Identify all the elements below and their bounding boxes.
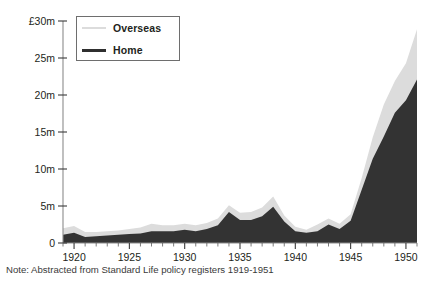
- y-tick-label: 15m: [35, 126, 56, 138]
- legend-item-overseas: Overseas: [77, 17, 179, 39]
- x-tick-label: 1945: [339, 251, 363, 263]
- x-tick-label: 1935: [228, 251, 252, 263]
- y-tick-label: 20m: [35, 89, 56, 101]
- y-tick-label: £30m: [29, 15, 56, 27]
- legend-swatch-overseas-icon: [82, 27, 106, 29]
- y-tick-label: 10m: [35, 163, 56, 175]
- chart-legend: Overseas Home: [76, 16, 180, 61]
- y-axis-tick-labels: 05m10m15m20m25m£30m: [29, 15, 56, 249]
- legend-label-overseas: Overseas: [113, 22, 161, 34]
- y-tick-label: 5m: [40, 200, 55, 212]
- x-tick-label: 1925: [118, 251, 142, 263]
- y-tick-label: 0: [49, 237, 55, 249]
- chart-source-note: Note: Abstracted from Standard Life poli…: [6, 264, 274, 275]
- chart-container: 05m10m15m20m25m£30m 19201925193019351940…: [0, 0, 446, 285]
- x-tick-label: 1920: [62, 251, 86, 263]
- y-tick-label: 25m: [35, 52, 56, 64]
- x-tick-label: 1940: [284, 251, 308, 263]
- legend-label-home: Home: [113, 44, 143, 56]
- area-chart-plot: 05m10m15m20m25m£30m 19201925193019351940…: [0, 0, 446, 285]
- legend-item-home: Home: [77, 39, 179, 61]
- x-tick-label: 1950: [394, 251, 418, 263]
- x-axis-tick-labels: 1920192519301935194019451950: [62, 251, 417, 263]
- legend-swatch-home-icon: [82, 49, 106, 52]
- x-tick-label: 1930: [173, 251, 197, 263]
